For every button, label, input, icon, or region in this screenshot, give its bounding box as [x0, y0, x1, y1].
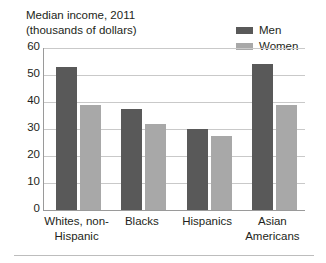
bar-men: [121, 109, 142, 210]
x-category-label: AsianAmericans: [240, 214, 305, 244]
chart-subtitle: (thousands of dollars): [26, 23, 137, 38]
chart-title: Median income, 2011: [26, 8, 137, 23]
x-axis-baseline: [44, 210, 305, 211]
y-tick-label-60: 60: [6, 40, 40, 52]
bar-group: [109, 48, 174, 210]
bar-men: [56, 67, 77, 210]
bar-group: [175, 48, 240, 210]
y-axis-tick-labels: 0102030405060: [0, 48, 40, 211]
legend-label-men: Men: [259, 24, 281, 36]
bar-women: [145, 124, 166, 210]
bar-men: [187, 129, 208, 210]
bars-layer: [44, 48, 305, 210]
legend-item-men: Men: [224, 22, 320, 38]
legend-swatch-men-icon: [236, 27, 253, 34]
bar-women: [80, 105, 101, 210]
x-axis-category-labels: Whites, non-HispanicBlacksHispanicsAsian…: [44, 214, 305, 254]
chart-title-block: Median income, 2011 (thousands of dollar…: [26, 8, 137, 38]
bar-men: [252, 64, 273, 210]
bar-group: [240, 48, 305, 210]
y-tick-label-0: 0: [6, 202, 40, 214]
bar-chart: Median income, 2011 (thousands of dollar…: [0, 0, 326, 263]
y-tick-label-20: 20: [6, 148, 40, 160]
bar-women: [211, 136, 232, 210]
x-category-label: Whites, non-Hispanic: [44, 214, 109, 244]
y-tick-label-10: 10: [6, 175, 40, 187]
bar-women: [276, 105, 297, 210]
y-tick-label-40: 40: [6, 94, 40, 106]
y-tick-label-50: 50: [6, 67, 40, 79]
x-category-label: Blacks: [109, 214, 174, 229]
y-tick-label-30: 30: [6, 121, 40, 133]
bottom-divider: [14, 255, 314, 256]
x-category-label: Hispanics: [175, 214, 240, 229]
bar-group: [44, 48, 109, 210]
